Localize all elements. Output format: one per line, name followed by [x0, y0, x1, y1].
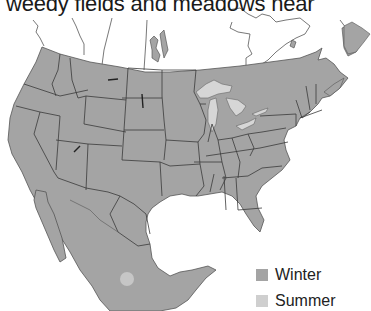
winter-swatch-icon [256, 269, 268, 281]
legend-label-summer: Summer [275, 292, 335, 310]
map-legend: Winter Summer [256, 262, 335, 311]
caption-text: weedy fields and meadows near [6, 0, 315, 17]
legend-item-summer: Summer [256, 288, 335, 311]
legend-item-winter: Winter [256, 262, 335, 288]
canada-islands [150, 24, 368, 62]
legend-label-winter: Winter [275, 266, 321, 284]
newfoundland [344, 22, 370, 54]
summer-swatch-icon [256, 295, 268, 307]
summer-range-spot [120, 272, 134, 286]
